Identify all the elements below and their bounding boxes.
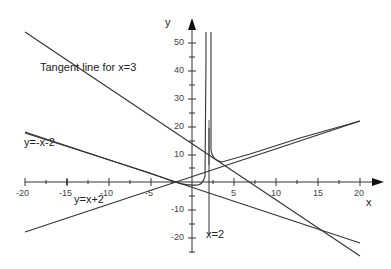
tangent-line-label: Tangent line for x=3 xyxy=(40,61,136,73)
y-tick-label: 30 xyxy=(174,93,184,103)
x-tick-label: -20 xyxy=(16,188,29,198)
y-tick-label: 10 xyxy=(174,149,184,159)
y-tick-label: -10 xyxy=(171,204,184,214)
x-axis-label: x xyxy=(366,196,372,208)
function-curve-right xyxy=(211,32,360,162)
x-tick-label: 20 xyxy=(354,188,364,198)
x-tick-label: 15 xyxy=(313,188,323,198)
neg-line-label: y=-x-2 xyxy=(24,136,55,148)
y-tick-label: 20 xyxy=(174,121,184,131)
y-axis xyxy=(188,18,196,253)
x-tick-label: 5 xyxy=(231,188,236,198)
x-tick-label: -5 xyxy=(145,188,153,198)
x-tick-label: 10 xyxy=(271,188,281,198)
chart-plot-area xyxy=(0,0,391,269)
y-axis-label: y xyxy=(165,16,171,28)
y-tick-label: 50 xyxy=(174,37,184,47)
y-tick-label: -20 xyxy=(171,232,184,242)
x-tick-label: -15 xyxy=(59,188,72,198)
pos-line-label: y=x+2 xyxy=(74,193,104,205)
function-curve-left xyxy=(25,32,206,185)
asymptote-label: x=2 xyxy=(206,228,224,240)
y-tick-label: 40 xyxy=(174,65,184,75)
